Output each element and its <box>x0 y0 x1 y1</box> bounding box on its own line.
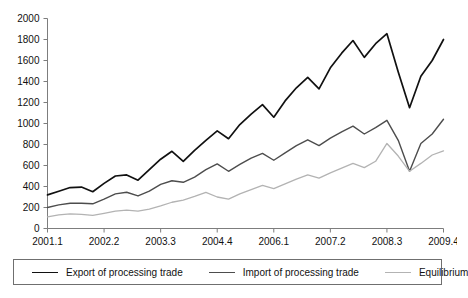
x-tick-label: 2008.3 <box>372 236 403 247</box>
x-tick-label: 2002.2 <box>89 236 120 247</box>
legend-item-equilibrium: Equilibrium <box>385 260 468 284</box>
y-tick-label: 2000 <box>17 13 40 24</box>
legend-label-equilibrium: Equilibrium <box>419 267 468 278</box>
series-line-import <box>48 119 444 207</box>
series-line-export <box>48 34 444 195</box>
legend-item-import: Import of processing trade <box>209 260 359 284</box>
y-tick-label: 1000 <box>17 118 40 129</box>
x-tick-label: 2007.2 <box>315 236 346 247</box>
chart-legend: Export of processing trade Import of pro… <box>13 259 442 285</box>
y-tick-label: 0 <box>34 223 40 234</box>
x-tick-label: 2009.4 <box>428 236 457 247</box>
legend-swatch-import <box>209 272 235 273</box>
x-tick-label: 2001.1 <box>32 236 63 247</box>
y-tick-label: 200 <box>23 202 40 213</box>
legend-swatch-equilibrium <box>385 272 411 273</box>
legend-swatch-export <box>32 272 58 273</box>
legend-item-export: Export of processing trade <box>32 260 183 284</box>
y-tick-label: 1800 <box>17 34 40 45</box>
y-tick-label: 600 <box>23 160 40 171</box>
y-tick-label: 1200 <box>17 97 40 108</box>
y-tick-label: 800 <box>23 139 40 150</box>
data-series-group <box>48 34 444 217</box>
y-tick-label: 1400 <box>17 76 40 87</box>
x-tick-label: 2004.4 <box>202 236 233 247</box>
y-tick-label: 400 <box>23 181 40 192</box>
y-axis-ticks: 0200400600800100012001400160018002000 <box>17 13 47 234</box>
x-tick-label: 2003.3 <box>145 236 176 247</box>
x-tick-label: 2006.1 <box>258 236 289 247</box>
legend-label-export: Export of processing trade <box>66 267 183 278</box>
x-axis-ticks: 2001.12002.22003.32004.42006.12007.22008… <box>32 229 457 247</box>
y-tick-label: 1600 <box>17 55 40 66</box>
legend-label-import: Import of processing trade <box>243 267 359 278</box>
series-line-equilibrium <box>48 143 444 217</box>
